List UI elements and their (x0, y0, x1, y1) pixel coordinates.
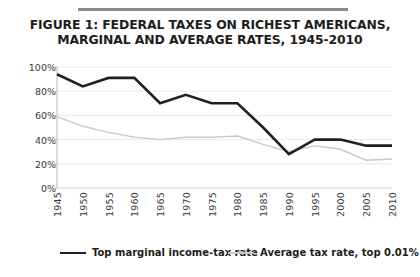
x-axis-tick-label: 2000 (335, 192, 346, 217)
legend-line-icon-marginal (60, 252, 86, 255)
x-axis-tick-label: 1995 (310, 192, 321, 217)
x-axis-tick-label: 1965 (155, 192, 166, 217)
title-line-2: MARGINAL AND AVERAGE RATES, 1945-2010 (20, 32, 400, 47)
legend-line-icon-average (228, 252, 254, 253)
legend-label-average: Average tax rate, top 0.01% (260, 247, 419, 259)
x-axis-tick-label: 1945 (52, 192, 63, 217)
plot-area (0, 58, 420, 198)
legend-item-average: Average tax rate, top 0.01% (228, 247, 419, 259)
x-axis-tick-label: 1985 (258, 192, 269, 217)
chart-svg (0, 58, 420, 198)
title-line-1: FIGURE 1: FEDERAL TAXES ON RICHEST AMERI… (30, 17, 391, 32)
x-axis-tick-label: 1970 (181, 192, 192, 217)
page-title: FIGURE 1: FEDERAL TAXES ON RICHEST AMERI… (20, 17, 400, 47)
figure-container: FIGURE 1: FEDERAL TAXES ON RICHEST AMERI… (0, 0, 420, 277)
x-axis-tick-label: 1980 (232, 192, 243, 217)
x-axis-labels: 1945195019551960196519701975198019851990… (0, 192, 420, 238)
x-axis-tick-label: 1975 (207, 192, 218, 217)
top-decorative-rule (78, 8, 348, 11)
series-line (57, 117, 392, 161)
x-axis-tick-label: 1990 (284, 192, 295, 217)
chart-legend: Top marginal income-tax rate Average tax… (0, 247, 420, 271)
x-axis-tick-label: 1950 (78, 192, 89, 217)
x-axis-tick-label: 1960 (129, 192, 140, 217)
x-axis-tick-label: 1955 (104, 192, 115, 217)
series-line (57, 74, 392, 154)
x-axis-tick-label: 2010 (387, 192, 398, 217)
x-axis-tick-label: 2005 (361, 192, 372, 217)
